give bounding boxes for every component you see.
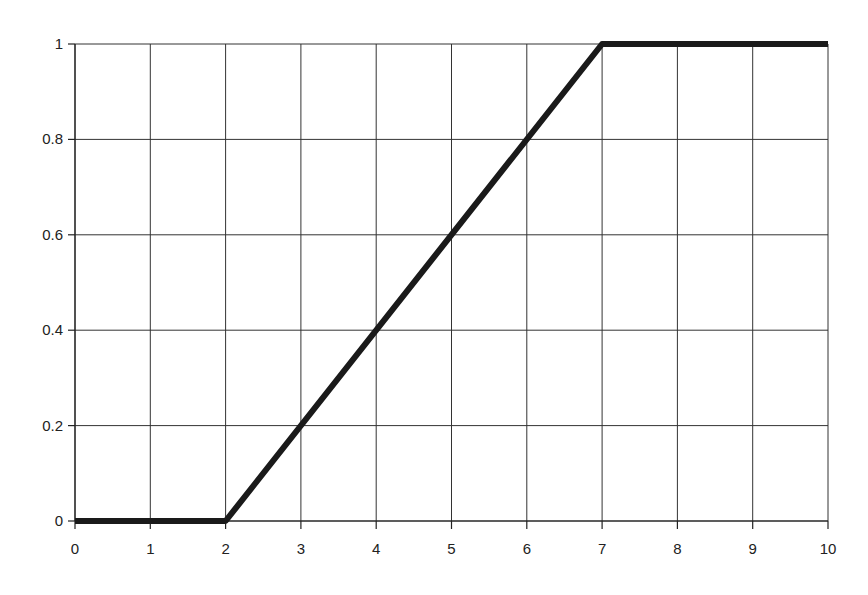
x-tick-label: 2	[221, 540, 229, 557]
x-tick-label: 4	[372, 540, 380, 557]
line-chart: 012345678910 00.20.40.60.81	[0, 0, 868, 595]
x-tick-label: 1	[146, 540, 154, 557]
y-tick-label: 0	[55, 512, 63, 529]
y-tick-label: 0.6	[42, 226, 63, 243]
y-axis-ticks: 00.20.40.60.81	[42, 35, 75, 529]
x-tick-label: 6	[523, 540, 531, 557]
x-tick-label: 10	[820, 540, 837, 557]
x-tick-label: 9	[749, 540, 757, 557]
y-tick-label: 1	[55, 35, 63, 52]
y-tick-label: 0.4	[42, 321, 63, 338]
x-tick-label: 0	[71, 540, 79, 557]
y-tick-label: 0.2	[42, 417, 63, 434]
y-tick-label: 0.8	[42, 130, 63, 147]
x-tick-label: 5	[447, 540, 455, 557]
grid-lines	[75, 44, 828, 521]
x-tick-label: 3	[297, 540, 305, 557]
x-tick-label: 8	[673, 540, 681, 557]
x-axis-ticks: 012345678910	[71, 521, 837, 557]
x-tick-label: 7	[598, 540, 606, 557]
